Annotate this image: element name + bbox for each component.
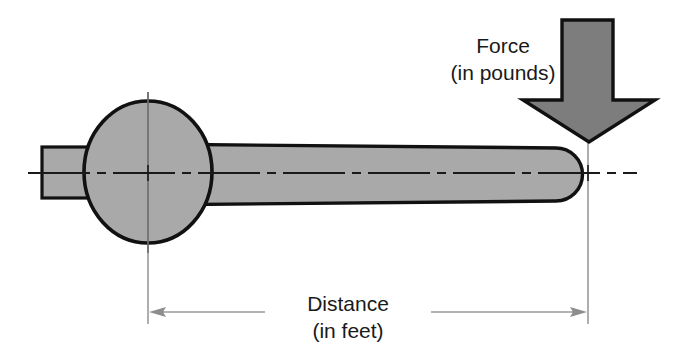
force-label-line1: Force bbox=[476, 34, 530, 57]
force-label-line2: (in pounds) bbox=[450, 61, 555, 84]
diagram-canvas: Force (in pounds) Distance (in feet) bbox=[0, 0, 694, 361]
torque-wrench-diagram: Force (in pounds) Distance (in feet) bbox=[0, 0, 694, 361]
distance-label-line2: (in feet) bbox=[312, 319, 383, 342]
distance-label-line1: Distance bbox=[307, 292, 389, 315]
